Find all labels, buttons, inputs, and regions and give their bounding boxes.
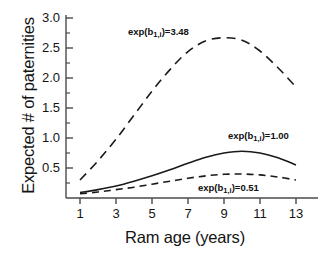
annotation-subscript: 1,i (153, 30, 161, 39)
series-annotation-2: exp(b1,i)=0.51 (198, 182, 259, 195)
x-tick-label: 13 (284, 206, 308, 221)
series-curve-1 (80, 151, 296, 192)
annotation-tail: )=1.00 (262, 130, 289, 141)
x-tick-label: 3 (104, 206, 128, 221)
series-annotation-0: exp(b1,i)=3.48 (128, 26, 189, 39)
annotation-tail: )=3.48 (162, 26, 189, 37)
y-tick-label: 2.0 (26, 70, 60, 85)
series-annotation-1: exp(b1,i)=1.00 (228, 130, 289, 143)
x-tick-label: 7 (176, 206, 200, 221)
y-tick-label: 1.5 (26, 100, 60, 115)
annotation-base: exp(b (198, 182, 223, 193)
y-tick-label: 2.5 (26, 40, 60, 55)
y-tick-label: 3.0 (26, 10, 60, 25)
annotation-tail: )=0.51 (232, 182, 259, 193)
x-tick-label: 5 (140, 206, 164, 221)
figure-container: Expected # of paternities Ram age (years… (0, 0, 329, 261)
annotation-base: exp(b (128, 26, 153, 37)
x-tick-label: 1 (68, 206, 92, 221)
y-tick-label: 0.5 (26, 160, 60, 175)
annotation-base: exp(b (228, 130, 253, 141)
y-tick-label: 1.0 (26, 130, 60, 145)
annotation-subscript: 1,i (223, 186, 231, 195)
annotation-subscript: 1,i (253, 134, 261, 143)
series-curve-0 (80, 38, 296, 180)
x-tick-label: 11 (248, 206, 272, 221)
x-tick-label: 9 (212, 206, 236, 221)
series-curve-2 (80, 174, 296, 194)
